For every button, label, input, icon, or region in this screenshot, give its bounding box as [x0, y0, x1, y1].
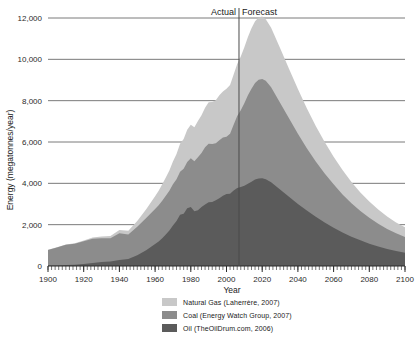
legend-item-oil: Oil (TheOilDrum.com, 2006)	[162, 322, 402, 334]
plot-area: 02,0004,0006,0008,00010,00012,000 190019…	[0, 0, 416, 300]
chart-svg: 02,0004,0006,0008,00010,00012,000 190019…	[0, 0, 416, 300]
y-tick-label: 4,000	[22, 179, 43, 188]
y-tick-label: 2,000	[22, 221, 43, 230]
legend-swatch-coal	[162, 311, 177, 319]
x-axis-tick-labels-group: 1900192019401960198020002020204020602080…	[39, 275, 414, 284]
x-tick-label: 2040	[289, 275, 307, 284]
y-tick-label: 12,000	[18, 14, 43, 23]
x-tick-label: 2020	[253, 275, 271, 284]
x-tick-label: 1920	[75, 275, 93, 284]
legend-swatch-natural-gas	[162, 298, 177, 306]
chart-legend: Natural Gas (Laherrère, 2007) Coal (Ener…	[162, 296, 402, 335]
x-tick-label: 1980	[182, 275, 200, 284]
x-tick-label: 2100	[396, 275, 414, 284]
legend-label-coal: Coal (Energy Watch Group, 2007)	[183, 312, 292, 319]
legend-item-natural-gas: Natural Gas (Laherrère, 2007)	[162, 296, 402, 308]
legend-label-natural-gas: Natural Gas (Laherrère, 2007)	[183, 299, 280, 306]
y-tick-label: 8,000	[22, 97, 43, 106]
x-tick-label: 2000	[218, 275, 236, 284]
x-tick-label: 1960	[146, 275, 164, 284]
legend-swatch-oil	[162, 324, 177, 332]
x-axis-title: Year	[223, 285, 240, 295]
x-tick-label: 1900	[39, 275, 57, 284]
actual-label: Actual	[211, 7, 236, 17]
y-tick-label: 0	[38, 262, 43, 271]
legend-label-oil: Oil (TheOilDrum.com, 2006)	[183, 325, 273, 332]
y-tick-label: 6,000	[22, 138, 43, 147]
legend-item-coal: Coal (Energy Watch Group, 2007)	[162, 309, 402, 321]
fossil-fuel-production-chart: 02,0004,0006,0008,00010,00012,000 190019…	[0, 0, 416, 343]
x-tick-label: 2080	[360, 275, 378, 284]
x-tick-label: 2060	[325, 275, 343, 284]
series-areas-group	[48, 17, 405, 266]
y-axis-title: Energy (megatonnes/year)	[5, 110, 15, 211]
y-tick-label: 10,000	[18, 55, 43, 64]
x-tick-label: 1940	[111, 275, 129, 284]
forecast-label: Forecast	[242, 7, 278, 17]
x-axis-ticks-group	[48, 266, 405, 272]
y-axis-tick-labels-group: 02,0004,0006,0008,00010,00012,000	[18, 14, 43, 271]
